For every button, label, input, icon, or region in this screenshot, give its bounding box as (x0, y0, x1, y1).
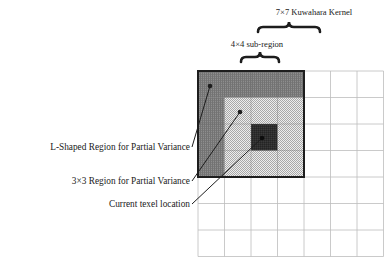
label-current-texel: Current texel location (0, 200, 196, 209)
label-sub-region: 4×4 sub-region (197, 40, 317, 49)
label-3x3-region: 3×3 Region for Partial Variance (0, 177, 196, 186)
current-texel-cell (251, 124, 278, 151)
figure-canvas: L-Shaped Region for Partial Variance 3×3… (0, 0, 392, 267)
diagram-svg (0, 0, 392, 267)
label-l-shaped-region: L-Shaped Region for Partial Variance (0, 143, 196, 152)
kernel-brace (258, 22, 320, 32)
sub-region-brace (241, 52, 279, 62)
label-kuwahara-kernel: 7×7 Kuwahara Kernel (245, 8, 383, 17)
